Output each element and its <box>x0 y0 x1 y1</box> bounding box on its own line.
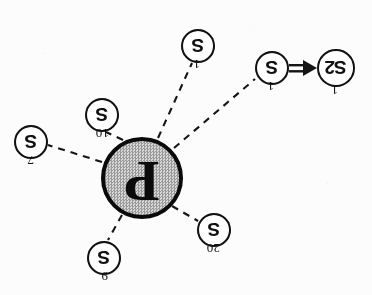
edge-p-to-s7 <box>48 145 102 162</box>
center-node-p[interactable]: P <box>101 137 183 219</box>
edge-p-to-s1-bottom <box>158 63 192 138</box>
node-label: S <box>192 37 204 56</box>
node-tag-1-left: 1 <box>267 78 274 94</box>
node-tag-9: 9 <box>101 268 108 284</box>
node-tag-20: 20 <box>207 240 220 256</box>
node-label: S <box>208 221 220 240</box>
node-tag-10: 10 <box>96 125 109 141</box>
arrow-head <box>303 60 317 76</box>
node-label: S <box>266 59 278 78</box>
node-label: S <box>98 249 110 268</box>
center-node-label: P <box>125 152 160 210</box>
node-tag-7: 7 <box>27 152 34 168</box>
node-tag-1-bottom: 1 <box>193 56 200 72</box>
edge-p-to-s1-left <box>174 79 255 148</box>
node-tag-s2: 1 <box>331 82 338 98</box>
edge-p-to-s9 <box>108 215 122 240</box>
rotated-figure-group: P S 20 S 9 S 7 S 10 S 1 S 1 <box>0 0 372 295</box>
node-label: S <box>25 133 37 152</box>
diagram-canvas: P S 20 S 9 S 7 S 10 S 1 S 1 <box>0 0 372 295</box>
arrow-edge-s1-to-s2 <box>289 60 317 76</box>
node-label: S2 <box>325 59 346 78</box>
node-label: S <box>96 106 108 125</box>
edge-p-to-s20 <box>172 206 198 221</box>
